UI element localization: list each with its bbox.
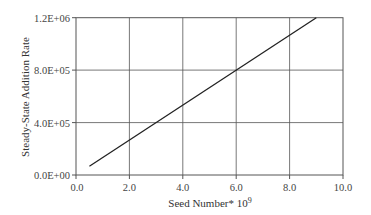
svg-text:0.0: 0.0 bbox=[70, 182, 83, 193]
svg-text:8.0E+05: 8.0E+05 bbox=[34, 65, 70, 76]
plot-area bbox=[76, 18, 343, 175]
x-axis-label: Seed Number* 109 bbox=[168, 196, 251, 209]
svg-text:1.2E+06: 1.2E+06 bbox=[34, 13, 70, 24]
y-tick-labels: 1.2E+06 8.0E+05 4.0E+05 0.0E+00 bbox=[34, 13, 70, 182]
y-axis-ticks bbox=[72, 18, 76, 175]
chart: 1.2E+06 8.0E+05 4.0E+05 0.0E+00 0.0 2.0 … bbox=[0, 0, 371, 215]
gridlines bbox=[76, 18, 343, 175]
svg-text:8.0: 8.0 bbox=[283, 182, 296, 193]
svg-text:4.0E+05: 4.0E+05 bbox=[34, 118, 70, 129]
svg-text:0.0E+00: 0.0E+00 bbox=[34, 170, 70, 181]
svg-text:2.0: 2.0 bbox=[123, 182, 136, 193]
x-axis-ticks bbox=[76, 175, 343, 179]
svg-text:6.0: 6.0 bbox=[230, 182, 243, 193]
x-tick-labels: 0.0 2.0 4.0 6.0 8.0 10.0 bbox=[70, 182, 352, 193]
y-axis-label: Steady-State Addition Rate bbox=[19, 37, 31, 157]
data-line bbox=[89, 18, 316, 167]
svg-text:4.0: 4.0 bbox=[176, 182, 189, 193]
svg-text:10.0: 10.0 bbox=[334, 182, 352, 193]
